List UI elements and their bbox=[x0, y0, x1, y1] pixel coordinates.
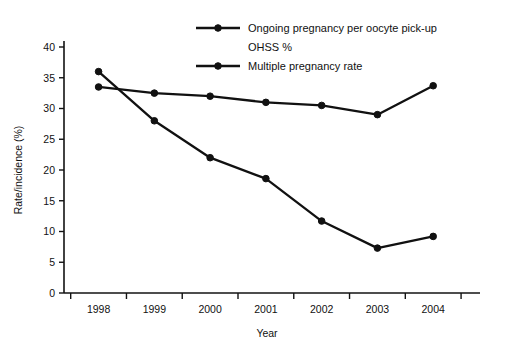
y-tick-label: 0 bbox=[49, 287, 55, 299]
x-tick-label: 2003 bbox=[366, 303, 390, 315]
y-axis-tick-labels: 0510152025303540 bbox=[43, 41, 55, 299]
legend-marker-3 bbox=[215, 63, 222, 70]
y-tick-label: 10 bbox=[43, 225, 55, 237]
data-point bbox=[318, 218, 325, 225]
chart-legend: Ongoing pregnancy per oocyte pick-upOHSS… bbox=[196, 22, 437, 72]
y-tick-label: 35 bbox=[43, 72, 55, 84]
x-tick-label: 2002 bbox=[310, 303, 334, 315]
data-point bbox=[95, 84, 102, 91]
data-point bbox=[151, 118, 158, 125]
y-tick-label: 40 bbox=[43, 41, 55, 53]
series-line bbox=[99, 72, 434, 249]
y-tick-label: 15 bbox=[43, 195, 55, 207]
data-point bbox=[318, 102, 325, 109]
legend-label-3: Multiple pregnancy rate bbox=[248, 60, 362, 72]
y-tick-label: 5 bbox=[49, 256, 55, 268]
data-point bbox=[207, 154, 214, 161]
x-tick-label: 2004 bbox=[422, 303, 446, 315]
data-point bbox=[151, 90, 158, 97]
legend-marker-1 bbox=[215, 25, 222, 32]
data-point bbox=[95, 68, 102, 75]
x-tick-label: 1999 bbox=[143, 303, 167, 315]
line-chart: Ongoing pregnancy per oocyte pick-upOHSS… bbox=[0, 0, 523, 350]
data-point bbox=[207, 93, 214, 100]
y-axis-title: Rate/incidence (%) bbox=[12, 126, 24, 215]
y-tick-label: 30 bbox=[43, 102, 55, 114]
chart-canvas: Ongoing pregnancy per oocyte pick-upOHSS… bbox=[0, 0, 523, 350]
legend-label-2: OHSS % bbox=[248, 41, 292, 53]
chart-series bbox=[95, 68, 436, 251]
data-point bbox=[263, 99, 270, 106]
data-point bbox=[374, 245, 381, 252]
x-axis-ticks bbox=[71, 293, 461, 299]
y-tick-label: 25 bbox=[43, 133, 55, 145]
x-axis-title: Year bbox=[256, 327, 278, 339]
legend-label-1: Ongoing pregnancy per oocyte pick-up bbox=[248, 22, 437, 34]
data-point bbox=[430, 82, 437, 89]
x-tick-label: 2000 bbox=[198, 303, 222, 315]
series-3 bbox=[95, 68, 436, 251]
data-point bbox=[263, 175, 270, 182]
data-point bbox=[430, 233, 437, 240]
x-tick-label: 2001 bbox=[254, 303, 278, 315]
x-tick-label: 1998 bbox=[87, 303, 111, 315]
y-tick-label: 20 bbox=[43, 164, 55, 176]
data-point bbox=[374, 111, 381, 118]
x-axis-tick-labels: 1998199920002001200220032004 bbox=[87, 303, 445, 315]
